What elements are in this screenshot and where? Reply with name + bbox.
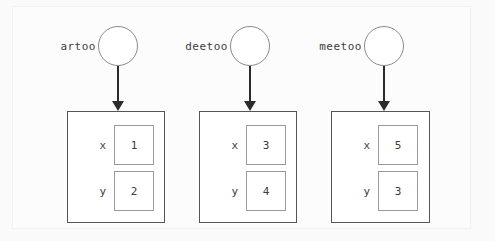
object-reference-circle-meetoo[interactable] [364, 26, 404, 66]
attribute-row: y 2 [68, 170, 164, 212]
attribute-row: x 1 [68, 124, 164, 166]
attribute-name-y: y [332, 185, 378, 198]
diagram-canvas: artoo x 1 y 2 deetoo x 3 [0, 0, 495, 241]
attribute-row: y 3 [332, 170, 429, 212]
attribute-name-x: x [332, 139, 378, 152]
attribute-value-x: 1 [114, 125, 154, 165]
object-reference-circle-artoo[interactable] [98, 26, 138, 66]
object-box-artoo[interactable]: x 1 y 2 [67, 111, 165, 223]
attribute-name-x: x [200, 139, 246, 152]
attribute-value-y: 2 [114, 171, 154, 211]
attribute-value-x: 3 [246, 125, 286, 165]
attribute-value-y: 3 [378, 171, 418, 211]
object-box-deetoo[interactable]: x 3 y 4 [199, 111, 297, 223]
down-arrow-head-deetoo [244, 101, 256, 111]
attribute-value-x: 5 [378, 125, 418, 165]
down-arrow-icon-artoo [117, 66, 119, 105]
down-arrow-head-meetoo [378, 101, 390, 111]
object-reference-circle-deetoo[interactable] [230, 26, 270, 66]
attribute-value-y: 4 [246, 171, 286, 211]
attribute-row: x 3 [200, 124, 296, 166]
attribute-name-x: x [68, 139, 114, 152]
attribute-name-y: y [200, 185, 246, 198]
reference-label-artoo: artoo [20, 40, 96, 53]
reference-label-deetoo: deetoo [146, 40, 228, 53]
down-arrow-icon-meetoo [383, 66, 385, 105]
reference-label-meetoo: meetoo [278, 40, 362, 53]
down-arrow-icon-deetoo [249, 66, 251, 105]
attribute-name-y: y [68, 185, 114, 198]
attribute-row: x 5 [332, 124, 429, 166]
object-box-meetoo[interactable]: x 5 y 3 [331, 111, 430, 223]
attribute-row: y 4 [200, 170, 296, 212]
down-arrow-head-artoo [112, 101, 124, 111]
